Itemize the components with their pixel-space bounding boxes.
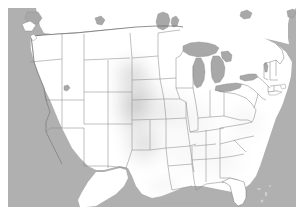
us-map[interactable]	[0, 0, 304, 220]
map-figure	[0, 0, 304, 220]
